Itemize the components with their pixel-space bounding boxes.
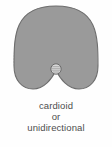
cardioid-lobe [14, 6, 98, 89]
cardioid-pattern-figure: cardioid or unidirectional [0, 0, 112, 147]
cardioid-shape-svg [0, 0, 112, 97]
microphone-capsule-icon [51, 64, 61, 74]
pattern-caption: cardioid or unidirectional [0, 100, 112, 133]
caption-line-primary: cardioid [0, 100, 112, 111]
caption-line-alternate: unidirectional [0, 122, 112, 133]
polar-pattern-graphic [0, 0, 112, 97]
caption-line-conjunction: or [0, 111, 112, 122]
